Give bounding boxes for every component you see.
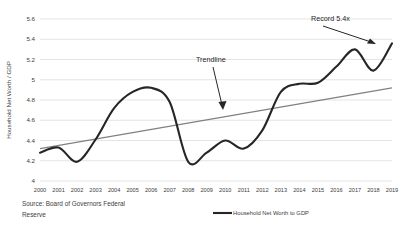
y-tick-label: 5.4 <box>26 35 35 42</box>
x-tick-label: 2008 <box>182 187 194 193</box>
x-tick-label: 2002 <box>71 187 83 193</box>
y-tick-label: 4.6 <box>26 116 35 123</box>
y-tick-label: 4 <box>32 177 36 184</box>
y-tick-label: 5 <box>32 76 36 83</box>
y-axis-title: Household Net Worth / GDP <box>5 61 12 139</box>
x-tick-label: 2010 <box>219 187 231 193</box>
x-tick-label: 2015 <box>312 187 324 193</box>
x-tick-label: 2017 <box>349 187 361 193</box>
x-tick-label: 2018 <box>367 187 379 193</box>
x-tick-label: 2000 <box>34 187 46 193</box>
trendline-annotation-label: Trendline <box>196 55 226 64</box>
x-tick-label: 2012 <box>256 187 268 193</box>
household-net-worth-to-gdp-chart: 44.24.44.64.855.25.45.6 2000200120022003… <box>0 0 402 227</box>
x-tick-label: 2009 <box>201 187 213 193</box>
y-tick-label: 5.6 <box>26 15 35 22</box>
x-tick-label: 2011 <box>238 187 250 193</box>
x-tick-label: 2013 <box>275 187 287 193</box>
x-tick-label: 2016 <box>330 187 342 193</box>
legend-item-label: Household Net Worth to GDP <box>233 210 309 216</box>
x-tick-label: 2005 <box>126 187 138 193</box>
y-tick-label: 4.8 <box>26 96 35 103</box>
source-note-line-1: Source: Board of Governors Federal <box>22 200 125 207</box>
x-tick-label: 2019 <box>386 187 398 193</box>
record-annotation-label: Record 5.4x <box>311 14 350 23</box>
x-tick-label: 2014 <box>293 187 305 193</box>
x-tick-label: 2006 <box>145 187 157 193</box>
x-tick-label: 2003 <box>89 187 101 193</box>
y-tick-label: 4.4 <box>26 137 35 144</box>
x-tick-label: 2007 <box>163 187 175 193</box>
y-tick-label: 5.2 <box>26 56 35 63</box>
source-note-line-2: Reserve <box>22 211 46 218</box>
x-tick-label: 2004 <box>108 187 120 193</box>
y-axis-tick-labels: 44.24.44.64.855.25.45.6 <box>26 15 35 184</box>
y-tick-label: 4.2 <box>26 157 35 164</box>
chart-page: 44.24.44.64.855.25.45.6 2000200120022003… <box>0 0 402 227</box>
x-tick-label: 2001 <box>52 187 64 193</box>
